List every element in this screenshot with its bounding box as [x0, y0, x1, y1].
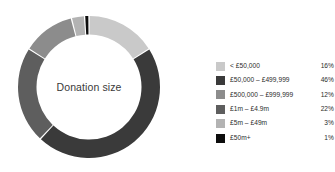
donut-slice[interactable]: [18, 50, 53, 139]
legend-row[interactable]: £500,000 – £999,99912%: [216, 88, 334, 102]
donut-svg: [14, 12, 164, 162]
legend-swatch-icon: [216, 119, 225, 128]
legend-label: £1m – £4.9m: [230, 106, 314, 113]
donut-slice[interactable]: [29, 18, 75, 58]
legend-percentage: 46%: [314, 77, 334, 84]
donut-chart: Donation size: [14, 12, 164, 162]
donut-slice[interactable]: [90, 16, 149, 58]
legend-row[interactable]: £5m – £49m3%: [216, 117, 334, 131]
legend-percentage: 12%: [314, 92, 334, 99]
legend-percentage: 3%: [314, 120, 334, 127]
legend-label: £50m+: [230, 135, 314, 142]
donut-slice[interactable]: [41, 50, 160, 158]
legend-row[interactable]: < £50,00016%: [216, 59, 334, 73]
legend-percentage: 1%: [314, 135, 334, 142]
legend-swatch-icon: [216, 62, 225, 71]
chart-legend: < £50,00016%£50,000 – £499,99946%£500,00…: [216, 59, 334, 145]
legend-row[interactable]: £50,000 – £499,99946%: [216, 73, 334, 87]
legend-label: £50,000 – £499,999: [230, 77, 314, 84]
legend-row[interactable]: £50m+1%: [216, 131, 334, 145]
donut-slice-group: [18, 16, 160, 158]
chart-page: Donation size < £50,00016%£50,000 – £499…: [0, 0, 335, 172]
legend-percentage: 22%: [314, 106, 334, 113]
legend-swatch-icon: [216, 90, 225, 99]
legend-swatch-icon: [216, 105, 225, 114]
donut-slice[interactable]: [85, 16, 88, 35]
legend-label: £500,000 – £999,999: [230, 92, 314, 99]
legend-label: < £50,000: [230, 63, 314, 70]
legend-label: £5m – £49m: [230, 120, 314, 127]
legend-swatch-icon: [216, 76, 225, 85]
legend-row[interactable]: £1m – £4.9m22%: [216, 102, 334, 116]
legend-swatch-icon: [216, 134, 225, 143]
legend-percentage: 16%: [314, 63, 334, 70]
